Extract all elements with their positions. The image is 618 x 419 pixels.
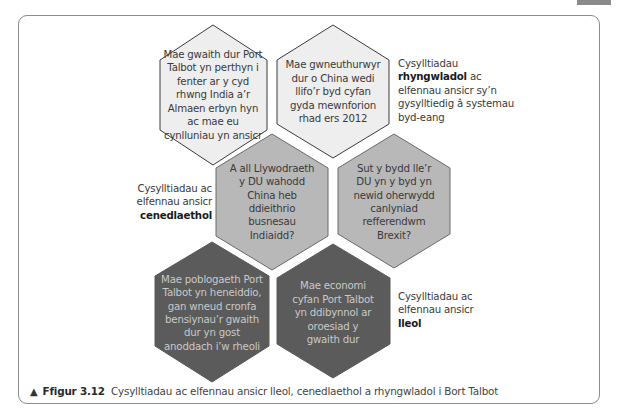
hexagon-text: Mae poblogaeth Port Talbot yn heneiddio,…	[160, 273, 264, 353]
label-international: Cysylltiadau rhyngwladol ac elfennau ans…	[398, 57, 518, 124]
label-national-pre: Cysylltiadau ac elfennau ansicr	[137, 183, 212, 207]
hexagon-top-left-text: Mae gwaith dur Port Talbot yn perthyn i …	[163, 40, 263, 150]
hexagon-text: Mae economi cyfan Port Talbot yn ddibynn…	[290, 279, 376, 346]
hexagon-text: Mae gwaith dur Port Talbot yn perthyn i …	[163, 48, 263, 142]
figure-number: Ffigur 3.12	[43, 385, 105, 397]
hexagon-bottom-right-text: Mae economi cyfan Port Talbot yn ddibynn…	[290, 270, 376, 356]
label-national-bold: cenedlaethol	[140, 210, 212, 221]
hexagon-top-right-text: Mae gwneuthurwyr dur o China wedi llifo’…	[283, 52, 383, 132]
figure-caption: ▲ Ffigur 3.12 Cysylltiadau ac elfennau a…	[30, 385, 498, 397]
label-local: Cysylltiadau ac elfennau ansicr lleol	[398, 290, 488, 330]
caption-text: Cysylltiadau ac elfennau ansicr lleol, c…	[111, 385, 498, 397]
label-international-bold: rhyngwladol	[398, 71, 467, 82]
hexagon-text: Mae gwneuthurwyr dur o China wedi llifo’…	[283, 58, 383, 125]
hexagon-bottom-left-text: Mae poblogaeth Port Talbot yn heneiddio,…	[160, 258, 264, 368]
triangle-up-icon: ▲	[30, 386, 38, 397]
hexagon-text: A all Llywodraeth y DU wahodd China heb …	[226, 162, 318, 242]
hexagon-mid-right-text: Sut y bydd lle’r DU yn y byd yn newid oh…	[350, 160, 438, 244]
label-international-pre: Cysylltiadau	[398, 58, 458, 69]
label-local-pre: Cysylltiadau ac elfennau ansicr	[398, 291, 473, 315]
hexagon-text: Sut y bydd lle’r DU yn y byd yn newid oh…	[350, 162, 438, 242]
label-national: Cysylltiadau ac elfennau ansicr cenedlae…	[120, 182, 212, 222]
hexagon-mid-left-text: A all Llywodraeth y DU wahodd China heb …	[226, 162, 318, 242]
label-local-bold: lleol	[398, 318, 421, 329]
